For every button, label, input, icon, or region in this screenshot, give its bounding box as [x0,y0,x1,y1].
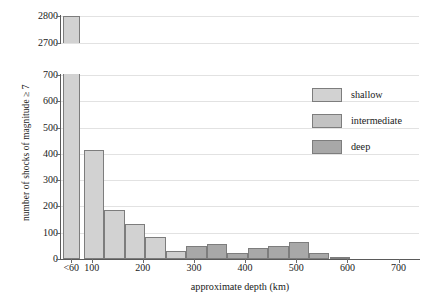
y-tick-label: 100 [24,228,58,238]
y-tick-mark [56,206,60,207]
histogram-bar [207,244,227,259]
gridline [61,206,419,207]
legend-label: intermediate [351,116,402,126]
legend-item-deep: deep [312,134,424,160]
gridline [61,180,419,181]
histogram-bar [125,224,145,259]
x-tick-mark [245,259,246,263]
y-tick-label: 200 [24,201,58,211]
y-tick-mark [56,259,60,260]
x-tick-label: 500 [289,263,304,273]
x-axis-label: approximate depth (km) [60,282,420,292]
histogram-bar [186,246,206,259]
x-tick-label: 600 [340,263,355,273]
x-tick-label: <60 [63,263,79,273]
y-tick-mark [56,233,60,234]
y-tick-label: 300 [24,175,58,185]
gridline [61,16,419,17]
y-tick-label: 500 [24,123,58,133]
y-tick-label: 2800 [24,11,58,21]
y-tick-mark [56,43,60,44]
y-axis-line-upper [60,15,61,44]
x-axis-line [60,259,420,260]
plot-panel-upper [61,16,419,43]
x-tick-label: 200 [135,263,150,273]
histogram-bar [289,242,309,259]
histogram-bar [145,237,165,259]
x-tick-mark [296,259,297,263]
histogram-bar [104,210,124,259]
x-tick-label: 100 [84,263,99,273]
y-tick-mark [56,75,60,76]
x-tick-mark [194,259,195,263]
y-tick-mark [56,154,60,155]
x-tick-mark [71,259,72,263]
legend-label: shallow [351,90,383,100]
histogram-bar [84,150,104,259]
legend-item-intermediate: intermediate [312,108,424,134]
histogram-bar [248,248,268,259]
y-tick-label: 2700 [24,38,58,48]
histogram-bar [166,251,186,259]
legend-swatch-shallow [312,88,342,102]
x-tick-mark [347,259,348,263]
legend: shallowintermediatedeep [312,82,424,160]
y-tick-mark [56,101,60,102]
x-tick-label: 400 [238,263,253,273]
gridline [61,43,419,44]
y-tick-mark [56,180,60,181]
legend-swatch-intermediate [312,114,342,128]
histogram-bar-clipped-top [63,16,80,43]
y-tick-mark [56,128,60,129]
histogram-bar [268,246,288,259]
y-tick-label: 400 [24,149,58,159]
legend-item-shallow: shallow [312,82,424,108]
legend-label: deep [351,142,370,152]
x-tick-mark [143,259,144,263]
y-tick-label: 700 [24,70,58,80]
x-tick-mark [399,259,400,263]
gridline [61,75,419,76]
earthquake-depth-histogram-figure: number of shocks of magnitude ≥ 7 approx… [0,0,431,305]
legend-swatch-deep [312,140,342,154]
x-tick-label: 300 [186,263,201,273]
x-tick-mark [92,259,93,263]
histogram-bar [63,74,80,259]
y-tick-mark [56,16,60,17]
y-axis-tick-labels: 010020030040050060070027002800 [22,0,58,305]
y-axis-line-lower [60,74,61,260]
y-tick-label: 600 [24,96,58,106]
y-tick-label: 0 [24,254,58,264]
x-tick-label: 700 [391,263,406,273]
